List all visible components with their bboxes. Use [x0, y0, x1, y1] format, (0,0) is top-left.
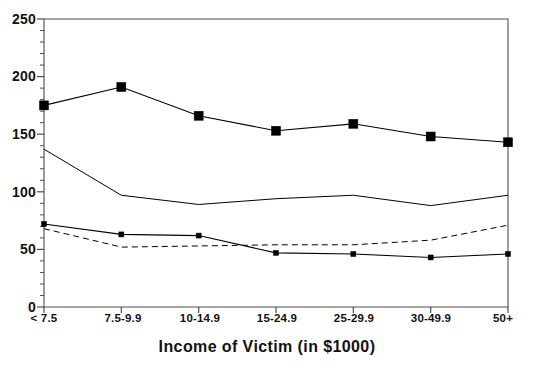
data-point-marker	[349, 119, 358, 128]
data-point-marker	[119, 232, 124, 237]
x-axis-tick-label: 50+	[478, 312, 528, 324]
data-point-marker	[42, 222, 47, 227]
data-point-marker	[504, 138, 513, 147]
axes-frame	[44, 19, 508, 307]
x-axis-title: Income of Victim (in $1000)	[0, 338, 534, 356]
data-point-marker	[194, 111, 203, 120]
data-point-marker	[506, 252, 511, 257]
data-point-marker	[196, 233, 201, 238]
x-axis-tick-label: 15-24.9	[242, 312, 312, 324]
x-axis-tick-label: 7.5-9.9	[88, 312, 158, 324]
series-line-series-2	[44, 149, 508, 205]
series-line-series-4	[44, 225, 508, 247]
x-axis-tick-label: 25-29.9	[319, 312, 389, 324]
axis-ticks	[37, 19, 508, 313]
x-axis-tick-label: < 7.5	[14, 312, 74, 324]
data-point-marker	[426, 132, 435, 141]
x-axis-tick-label: 10-14.9	[165, 312, 235, 324]
line-chart: 250 200 150 100 50 0 < 7.5 7.5-9.9 10-14…	[0, 0, 534, 372]
data-point-marker	[351, 252, 356, 257]
data-point-marker	[274, 250, 279, 255]
data-series-group	[40, 82, 513, 259]
data-point-marker	[40, 101, 49, 110]
data-point-marker	[117, 82, 126, 91]
plot-frame	[44, 19, 508, 307]
data-point-marker	[272, 126, 281, 135]
data-point-marker	[428, 255, 433, 260]
x-axis-tick-label: 30-49.9	[396, 312, 466, 324]
